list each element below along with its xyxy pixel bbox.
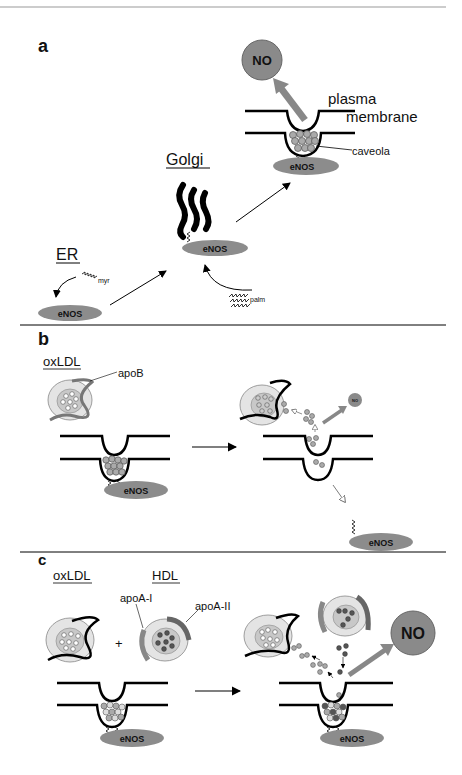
- myristate-chain: [82, 272, 97, 278]
- membrane-b-right: [263, 436, 373, 480]
- svg-text:eNOS: eNOS: [203, 244, 228, 254]
- enos-c-left: eNOS: [100, 729, 164, 747]
- svg-text:NO: NO: [352, 398, 358, 403]
- caveolin-cluster-b: [103, 456, 127, 475]
- released-particles-b: [282, 402, 325, 468]
- enos-b-left: eNOS: [104, 481, 168, 499]
- plasma-label: plasma: [328, 90, 377, 107]
- no-molecule-c: NO: [391, 611, 435, 655]
- svg-text:eNOS: eNOS: [340, 734, 365, 744]
- oxldl-particle-c-right: [244, 614, 298, 657]
- svg-text:NO: NO: [252, 53, 272, 68]
- enos-er: eNOS: [38, 305, 102, 321]
- hdl-particle-c: [142, 619, 189, 661]
- oxldl-label-b: oxLDL: [43, 354, 81, 369]
- svg-text:eNOS: eNOS: [369, 538, 394, 548]
- enos-c-right: eNOS: [320, 729, 384, 747]
- oxldl-particle-b: [48, 380, 92, 420]
- enos-release-arrow: [333, 485, 345, 502]
- no-molecule-a: NO: [242, 40, 282, 80]
- apoa2-label: apoA-II: [195, 600, 230, 612]
- no-release-arrow-c: [349, 644, 394, 675]
- arrow-er-to-golgi: [110, 271, 166, 305]
- palmitate-chains: [229, 294, 250, 307]
- panel-c-label: c: [38, 551, 46, 568]
- enos-membrane-a: eNOS: [273, 157, 339, 175]
- arrow-golgi-to-membrane: [236, 183, 290, 222]
- enos-golgi: eNOS: [182, 240, 248, 256]
- panel-a-label: a: [38, 36, 49, 56]
- svg-text:eNOS: eNOS: [58, 309, 83, 319]
- enos-b-released: eNOS: [349, 533, 413, 551]
- hdl-label: HDL: [152, 568, 178, 583]
- plus-sign: +: [115, 636, 123, 651]
- myr-arrow: [56, 277, 76, 297]
- hdl-particle-c-right: [320, 596, 368, 636]
- oxldl-label-c: oxLDL: [53, 568, 91, 583]
- released-particles-c: [292, 644, 342, 698]
- myr-label: myr: [98, 277, 110, 285]
- no-release-arrow-b: [323, 406, 347, 423]
- caveolin-cluster-c-left: [101, 702, 125, 721]
- svg-text:eNOS: eNOS: [120, 734, 145, 744]
- golgi-label: Golgi: [166, 151, 203, 168]
- caveolin-cluster-c-right: [322, 702, 346, 721]
- caveola-label: caveola: [352, 145, 391, 157]
- no-molecule-b: NO: [348, 393, 362, 407]
- palm-arrow: [205, 265, 252, 290]
- svg-text:eNOS: eNOS: [290, 162, 315, 172]
- svg-text:NO: NO: [401, 625, 425, 642]
- palm-label: palm: [250, 296, 265, 304]
- caveolin-cluster-a: [290, 131, 319, 152]
- membrane-label: membrane: [346, 108, 418, 125]
- panel-b-label: b: [38, 329, 49, 349]
- apoa1-label: apoA-I: [120, 592, 152, 604]
- svg-text:eNOS: eNOS: [124, 486, 149, 496]
- golgi-stack: [179, 185, 208, 237]
- apob-label: apoB: [118, 367, 144, 379]
- er-label: ER: [56, 246, 78, 263]
- oxldl-particle-c: [46, 617, 98, 662]
- no-release-arrow-a: [273, 78, 305, 120]
- enos-trafficking-diagram: a NO plasma membrane caveola eNOS Golgi …: [0, 0, 462, 775]
